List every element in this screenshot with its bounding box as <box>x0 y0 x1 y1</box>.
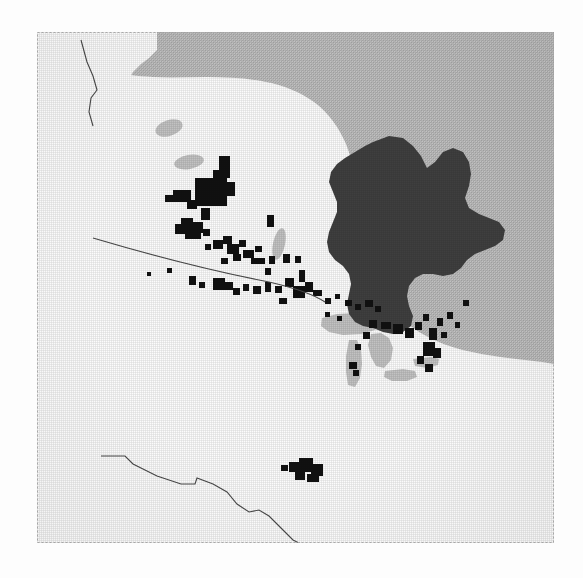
district <box>175 224 181 234</box>
district <box>335 294 340 299</box>
district <box>455 322 460 328</box>
district <box>299 458 313 472</box>
district <box>441 332 447 338</box>
district <box>147 272 151 276</box>
district <box>275 286 282 293</box>
district <box>437 318 443 326</box>
district <box>307 474 319 482</box>
map-layers-render <box>37 32 554 543</box>
district <box>285 278 294 287</box>
district <box>281 465 288 471</box>
district <box>325 312 330 317</box>
district <box>433 348 441 358</box>
map-canvas <box>37 32 554 543</box>
district <box>221 258 228 264</box>
district <box>369 320 377 328</box>
district <box>255 246 262 252</box>
district <box>243 250 254 258</box>
district <box>269 256 275 264</box>
district <box>295 256 301 263</box>
district <box>325 298 331 304</box>
district <box>417 356 424 364</box>
district <box>463 300 469 306</box>
district <box>279 298 287 304</box>
district <box>189 276 196 285</box>
district <box>265 282 271 292</box>
district <box>167 268 172 273</box>
district <box>355 304 361 310</box>
district <box>415 322 422 330</box>
district <box>199 282 205 288</box>
district <box>253 286 261 294</box>
district <box>201 208 210 220</box>
district <box>365 300 373 307</box>
district <box>345 300 352 306</box>
district <box>295 472 305 480</box>
district <box>305 282 313 292</box>
district <box>203 229 210 236</box>
district <box>423 314 429 321</box>
district <box>447 312 453 319</box>
district <box>375 306 381 312</box>
district <box>225 282 233 290</box>
district <box>313 290 322 296</box>
district <box>233 254 241 261</box>
district <box>243 284 249 291</box>
district <box>405 328 414 338</box>
district <box>223 236 232 244</box>
district <box>219 156 230 178</box>
district <box>425 364 433 372</box>
district <box>337 316 342 321</box>
district <box>165 195 173 202</box>
district <box>213 278 225 290</box>
district <box>355 344 361 350</box>
district <box>381 322 391 329</box>
district <box>185 231 201 239</box>
figure-root <box>0 0 583 578</box>
district <box>267 215 274 227</box>
district <box>363 332 370 339</box>
district <box>227 244 239 254</box>
district <box>239 240 246 247</box>
district <box>393 324 403 334</box>
district <box>251 258 265 264</box>
district <box>353 370 359 376</box>
district <box>233 288 240 295</box>
district <box>213 240 223 249</box>
district <box>349 362 357 369</box>
district <box>429 328 437 340</box>
district <box>195 178 227 206</box>
district <box>283 254 290 263</box>
district <box>187 200 197 209</box>
district <box>265 268 271 275</box>
map-frame <box>37 32 554 543</box>
district <box>299 270 305 282</box>
district <box>227 182 235 196</box>
district <box>205 244 211 250</box>
